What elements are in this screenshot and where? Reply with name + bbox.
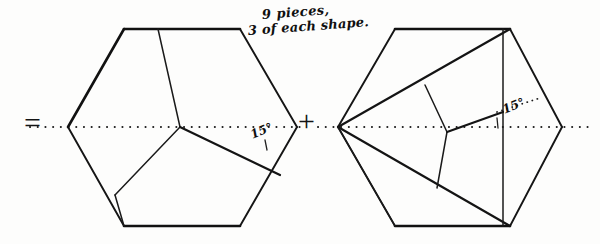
left-cut-lower-left-to-bottom (115, 195, 124, 226)
right-hexagon-edge-upper-left (338, 29, 395, 127)
right-hexagon-edge-upper-right (510, 29, 562, 127)
right-cut-apex-to-bottom-right (338, 127, 510, 226)
figure-root: = + 9 pieces, 3 of each shape. 15° 15° (0, 0, 600, 244)
right-cut-apex-to-top-right (338, 29, 510, 127)
right-cut-hub-to-lower (437, 132, 447, 188)
left-angle-tick (265, 140, 267, 150)
equals-operator: = (24, 108, 41, 138)
left-hexagon-edge-lower-left (68, 127, 124, 226)
left-cut-hub-to-top (158, 29, 180, 127)
left-cut-hub-to-lower-left (115, 127, 180, 195)
left-hexagon-edge-upper-left (68, 29, 124, 127)
right-cut-apex-to-bottom-left (338, 127, 395, 226)
right-cut-hub-to-right (447, 112, 503, 132)
plus-operator: + (298, 106, 315, 136)
left-hexagon-edge-upper-right (240, 29, 297, 127)
left-hexagon-edge-lower-right (240, 127, 297, 226)
right-hexagon-group (318, 29, 588, 226)
right-cut-hub-to-upper (425, 85, 447, 132)
right-hexagon-edge-lower-right (510, 127, 562, 226)
right-angle-tick (497, 118, 498, 128)
